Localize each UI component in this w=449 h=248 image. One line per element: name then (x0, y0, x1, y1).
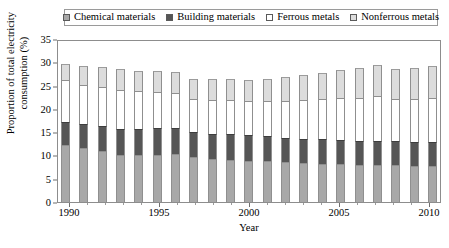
bar-segment-nonferrous-metals (263, 79, 272, 101)
y-axis-tick-label: 10 (41, 151, 52, 162)
bar-segment-chemical-materials (153, 155, 162, 203)
bar-column (263, 79, 272, 202)
bar-segment-nonferrous-metals (373, 65, 382, 96)
legend-label-nonferrous-metals: Nonferrous metals (361, 12, 439, 23)
bar-segment-building-materials (263, 136, 272, 161)
bar-segment-building-materials (428, 142, 437, 166)
bar-column (153, 71, 162, 202)
bar-segment-chemical-materials (391, 165, 400, 202)
bar-segment-building-materials (171, 128, 180, 155)
bar-segment-nonferrous-metals (134, 71, 143, 91)
bar-segment-ferrous-metals (171, 93, 180, 128)
bar-segment-building-materials (281, 138, 290, 163)
bar-column (410, 68, 419, 202)
bar-segment-building-materials (79, 124, 88, 148)
bar-segment-ferrous-metals (98, 87, 107, 125)
bar-segment-building-materials (226, 134, 235, 160)
bar-segment-ferrous-metals (281, 101, 290, 138)
bar-segment-ferrous-metals (336, 98, 345, 140)
bar-segment-building-materials (391, 141, 400, 165)
bar-segment-chemical-materials (299, 163, 308, 202)
x-axis-minor-tick (195, 203, 196, 205)
chart-legend: Chemical materials Building materials Fe… (64, 9, 438, 26)
bar-segment-nonferrous-metals (61, 64, 70, 80)
y-axis-tick-label: 0 (46, 198, 51, 209)
x-axis-title: Year (57, 222, 441, 233)
bar-segment-nonferrous-metals (428, 66, 437, 98)
legend-entry-chemical-materials: Chemical materials (63, 12, 155, 23)
y-axis-tick-label: 30 (41, 58, 52, 69)
bar-column (189, 79, 198, 202)
bar-segment-ferrous-metals (116, 90, 125, 129)
bar-segment-ferrous-metals (428, 98, 437, 142)
x-axis-minor-tick (393, 203, 394, 205)
bar-segment-chemical-materials (79, 148, 88, 202)
x-axis-minor-tick (321, 203, 322, 205)
bar-segment-nonferrous-metals (79, 66, 88, 85)
bar-column (318, 73, 327, 202)
bar-segment-chemical-materials (410, 166, 419, 202)
x-axis-minor-tick (267, 203, 268, 205)
bar-segment-ferrous-metals (299, 100, 308, 139)
bar-segment-ferrous-metals (263, 101, 272, 136)
bar-segment-building-materials (410, 142, 419, 166)
bar-segment-building-materials (373, 141, 382, 165)
bar-segment-chemical-materials (263, 161, 272, 202)
bar-segment-building-materials (134, 129, 143, 155)
bar-segment-ferrous-metals (318, 99, 327, 140)
x-axis-minor-tick (357, 203, 358, 205)
bar-segment-nonferrous-metals (226, 79, 235, 100)
x-axis-minor-tick (105, 203, 106, 205)
bar-segment-chemical-materials (226, 160, 235, 202)
bar-segment-building-materials (116, 129, 125, 155)
bar-segment-ferrous-metals (134, 91, 143, 129)
x-axis-minor-tick (303, 203, 304, 205)
bar-segment-ferrous-metals (355, 98, 364, 141)
bar-segment-chemical-materials (61, 145, 70, 202)
bar-series-container (58, 41, 440, 202)
bar-column (226, 79, 235, 202)
x-axis-minor-tick (213, 203, 214, 205)
legend-entry-nonferrous-metals: Nonferrous metals (350, 12, 439, 23)
bar-column (391, 69, 400, 202)
bar-column (336, 70, 345, 202)
bar-segment-chemical-materials (244, 161, 253, 202)
bar-segment-ferrous-metals (391, 99, 400, 142)
bar-segment-building-materials (208, 134, 217, 159)
bar-segment-ferrous-metals (373, 96, 382, 141)
bar-segment-ferrous-metals (153, 92, 162, 128)
bar-segment-ferrous-metals (189, 99, 198, 133)
bar-segment-nonferrous-metals (153, 71, 162, 91)
bar-segment-nonferrous-metals (116, 69, 125, 90)
bar-segment-chemical-materials (98, 151, 107, 202)
x-axis: 19901995200020052010 (57, 203, 441, 221)
bar-segment-nonferrous-metals (189, 79, 198, 99)
bar-segment-nonferrous-metals (98, 67, 107, 87)
y-axis-title: Proportion of total electricity consumpt… (4, 0, 30, 153)
x-axis-minor-tick (231, 203, 232, 205)
bar-column (299, 75, 308, 202)
legend-swatch-nonferrous-metals (350, 14, 357, 21)
bar-column (244, 80, 253, 202)
bar-segment-nonferrous-metals (299, 75, 308, 100)
bar-segment-ferrous-metals (244, 101, 253, 135)
legend-label-chemical-materials: Chemical materials (74, 12, 155, 23)
bar-segment-chemical-materials (428, 166, 437, 202)
y-axis-tick-label: 35 (41, 35, 52, 46)
legend-swatch-chemical-materials (63, 14, 70, 21)
y-axis: 05101520253035 (30, 40, 57, 203)
legend-label-ferrous-metals: Ferrous metals (277, 12, 339, 23)
bar-segment-nonferrous-metals (355, 68, 364, 97)
bar-segment-chemical-materials (336, 164, 345, 202)
bar-segment-nonferrous-metals (171, 72, 180, 92)
legend-swatch-building-materials (166, 14, 173, 21)
bar-column (208, 79, 217, 202)
y-axis-tick-label: 20 (41, 105, 52, 116)
bar-segment-nonferrous-metals (336, 70, 345, 98)
y-axis-tick-label: 5 (46, 174, 51, 185)
bar-segment-chemical-materials (318, 164, 327, 202)
bar-column (373, 65, 382, 202)
legend-label-building-materials: Building materials (177, 12, 255, 23)
bar-column (79, 66, 88, 202)
bar-column (116, 69, 125, 202)
